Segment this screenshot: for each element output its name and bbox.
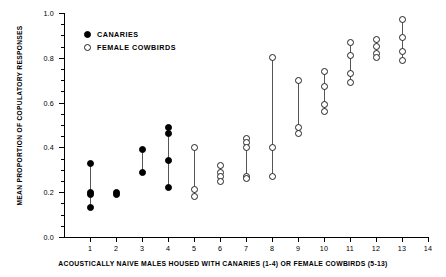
filled-circle-icon bbox=[84, 31, 91, 38]
data-point bbox=[87, 204, 94, 211]
data-point bbox=[217, 178, 224, 185]
data-point bbox=[217, 162, 224, 169]
x-axis-title: ACOUSTICALLY NAIVE MALES HOUSED WITH CAN… bbox=[0, 260, 446, 267]
x-tick bbox=[428, 238, 429, 242]
y-tick-minor bbox=[61, 24, 64, 25]
legend-label-female-cowbirds: FEMALE COWBIRDS bbox=[97, 43, 176, 52]
y-tick-label: 0.8 bbox=[32, 54, 54, 63]
x-tick-label: 2 bbox=[108, 244, 124, 253]
data-point bbox=[139, 169, 146, 176]
y-tick-major bbox=[59, 237, 64, 238]
y-tick-minor bbox=[61, 91, 64, 92]
y-tick-minor bbox=[61, 159, 64, 160]
x-tick-label: 1 bbox=[82, 244, 98, 253]
y-tick-minor bbox=[61, 136, 64, 137]
x-tick-label: 3 bbox=[134, 244, 150, 253]
x-tick bbox=[168, 238, 169, 242]
x-tick-label: 11 bbox=[342, 244, 358, 253]
data-point bbox=[191, 193, 198, 200]
range-line bbox=[90, 163, 91, 208]
data-point bbox=[87, 160, 94, 167]
data-point bbox=[373, 54, 380, 61]
data-point bbox=[321, 68, 328, 75]
legend-item-canaries: CANARIES bbox=[84, 28, 176, 41]
y-tick-label: 1.0 bbox=[32, 9, 54, 18]
x-tick bbox=[272, 238, 273, 242]
figure-container: MEAN PROPORTION OF COPULATORY RESPONSES … bbox=[0, 0, 446, 277]
y-tick-minor bbox=[61, 125, 64, 126]
y-tick-major bbox=[59, 58, 64, 59]
data-point bbox=[165, 130, 172, 137]
x-tick-label: 8 bbox=[264, 244, 280, 253]
y-tick-minor bbox=[61, 47, 64, 48]
x-tick-label: 5 bbox=[186, 244, 202, 253]
x-tick-label: 12 bbox=[368, 244, 384, 253]
x-tick bbox=[116, 238, 117, 242]
y-tick-major bbox=[59, 147, 64, 148]
y-tick-minor bbox=[61, 170, 64, 171]
data-point bbox=[113, 191, 120, 198]
y-tick-label: 0.6 bbox=[32, 99, 54, 108]
x-tick-label: 14 bbox=[420, 244, 436, 253]
y-tick-minor bbox=[61, 69, 64, 70]
x-tick bbox=[298, 238, 299, 242]
data-point bbox=[347, 52, 354, 59]
data-point bbox=[295, 77, 302, 84]
y-tick-major bbox=[59, 103, 64, 104]
data-point bbox=[165, 157, 172, 164]
open-circle-icon bbox=[84, 44, 91, 51]
y-tick-minor bbox=[61, 80, 64, 81]
x-tick-label: 9 bbox=[290, 244, 306, 253]
data-point bbox=[321, 83, 328, 90]
data-point bbox=[399, 16, 406, 23]
x-tick bbox=[142, 238, 143, 242]
x-tick bbox=[194, 238, 195, 242]
x-tick bbox=[324, 238, 325, 242]
x-tick-label: 4 bbox=[160, 244, 176, 253]
data-point bbox=[399, 34, 406, 41]
data-point bbox=[399, 57, 406, 64]
y-tick-label: 0.4 bbox=[32, 143, 54, 152]
x-tick bbox=[376, 238, 377, 242]
y-axis-title: MEAN PROPORTION OF COPULATORY RESPONSES bbox=[16, 1, 23, 231]
x-tick-label: 13 bbox=[394, 244, 410, 253]
x-tick-label: 6 bbox=[212, 244, 228, 253]
x-tick bbox=[246, 238, 247, 242]
data-point bbox=[321, 108, 328, 115]
data-point bbox=[399, 48, 406, 55]
x-tick-label: 10 bbox=[316, 244, 332, 253]
x-tick bbox=[402, 238, 403, 242]
legend: CANARIES FEMALE COWBIRDS bbox=[84, 28, 176, 54]
x-tick bbox=[350, 238, 351, 242]
legend-item-female-cowbirds: FEMALE COWBIRDS bbox=[84, 41, 176, 54]
data-point bbox=[87, 191, 94, 198]
y-tick-minor bbox=[61, 215, 64, 216]
data-point bbox=[269, 173, 276, 180]
y-tick-minor bbox=[61, 181, 64, 182]
range-line bbox=[272, 58, 273, 177]
data-point bbox=[269, 144, 276, 151]
data-point bbox=[347, 79, 354, 86]
y-axis-line bbox=[64, 13, 65, 238]
data-point bbox=[139, 146, 146, 153]
data-point bbox=[243, 175, 250, 182]
data-point bbox=[191, 144, 198, 151]
y-tick-minor bbox=[61, 35, 64, 36]
data-point bbox=[347, 39, 354, 46]
y-tick-minor bbox=[61, 114, 64, 115]
y-tick-minor bbox=[61, 203, 64, 204]
data-point bbox=[269, 54, 276, 61]
y-tick-major bbox=[59, 13, 64, 14]
y-tick-label: 0.2 bbox=[32, 188, 54, 197]
y-tick-label: 0.0 bbox=[32, 233, 54, 242]
x-tick bbox=[220, 238, 221, 242]
x-tick-label: 7 bbox=[238, 244, 254, 253]
data-point bbox=[347, 70, 354, 77]
y-tick-minor bbox=[61, 226, 64, 227]
legend-label-canaries: CANARIES bbox=[97, 30, 139, 39]
data-point bbox=[243, 144, 250, 151]
y-tick-major bbox=[59, 192, 64, 193]
data-point bbox=[165, 184, 172, 191]
x-tick bbox=[90, 238, 91, 242]
data-point bbox=[295, 130, 302, 137]
